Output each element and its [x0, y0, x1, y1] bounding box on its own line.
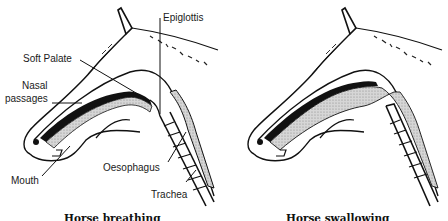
label-passages: passages — [5, 93, 48, 104]
horse-head-breathing-illustration — [0, 0, 224, 221]
label-oesophagus: Oesophagus — [103, 162, 160, 173]
horse-head-swallowing-illustration — [224, 0, 448, 221]
caption-horse-breathing: Horse breathing — [64, 212, 161, 221]
label-epiglottis: Epiglottis — [163, 12, 204, 23]
panel-horse-breathing: Epiglottis Soft Palate Nasal passages Mo… — [0, 0, 224, 221]
label-nasal: Nasal — [22, 80, 48, 91]
label-trachea: Trachea — [151, 189, 187, 200]
caption-horse-swallowing: Horse swallowing — [286, 212, 389, 221]
trachea-leader-line — [186, 170, 196, 182]
ear-icon — [342, 8, 356, 34]
label-soft-palate: Soft Palate — [23, 53, 72, 64]
ear-icon — [118, 8, 132, 34]
panel-horse-swallowing: Horse swallowing — [224, 0, 448, 221]
label-mouth: Mouth — [11, 175, 39, 186]
